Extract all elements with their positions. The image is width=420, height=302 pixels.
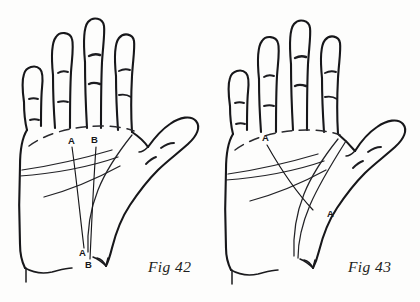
- marker-a-top-42: A: [68, 136, 75, 146]
- marker-a-bottom-43: A: [327, 209, 334, 219]
- figure-43-drawing: [210, 0, 420, 302]
- marker-a-bottom-42: A: [79, 248, 86, 258]
- marker-b-top-42: B: [91, 135, 98, 145]
- heart-line-42: [22, 150, 112, 170]
- figure-43: A A Fig 43: [210, 0, 420, 302]
- heart-line-43: [228, 154, 318, 174]
- figure-43-caption: Fig 43: [348, 259, 391, 275]
- fate-line-a-43: [267, 145, 313, 210]
- hand-outline-43: [225, 21, 405, 284]
- figure-42-caption: Fig 42: [148, 259, 191, 275]
- life-line-42: [88, 135, 132, 252]
- heart-line-lower-42: [20, 157, 118, 176]
- heart-line-lower-43: [226, 161, 324, 180]
- marker-b-bottom-42: B: [85, 260, 92, 270]
- head-line-42: [44, 166, 120, 197]
- illustration-page: A B A B Fig 42: [0, 0, 420, 302]
- marker-a-top-43: A: [262, 133, 269, 143]
- fate-line-b-42: [90, 147, 96, 259]
- life-line-43: [294, 139, 338, 256]
- figure-42-drawing: [0, 0, 210, 302]
- figure-42: A B A B Fig 42: [0, 0, 210, 302]
- fate-line-a-42: [72, 147, 84, 248]
- hand-outline-42: [19, 19, 198, 282]
